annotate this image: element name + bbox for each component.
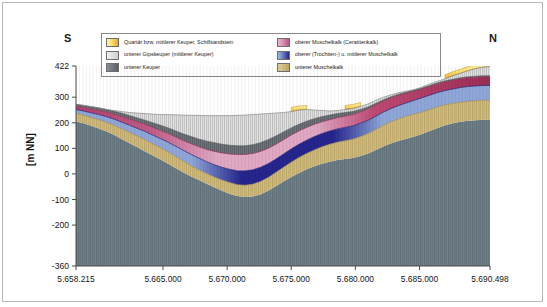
y-tick-label: 100	[55, 143, 70, 153]
x-tick-label: 5.680.000	[337, 274, 375, 284]
x-tick-label: 5.685.000	[401, 274, 439, 284]
y-tick-label: 422	[55, 61, 70, 71]
x-tick-label: 5.665.000	[144, 274, 182, 284]
x-tick-label: 5.658.215	[57, 274, 95, 284]
cross-section-svg: 4223002001000-100-200-3605.658.2155.665.…	[0, 0, 547, 307]
chart-plot-area: 4223002001000-100-200-3605.658.2155.665.…	[0, 0, 547, 307]
x-tick-label: 5.675.000	[273, 274, 311, 284]
x-tick-label: 5.690.498	[471, 274, 509, 284]
x-tick-label: 5.670.000	[208, 274, 246, 284]
y-tick-label: 300	[55, 92, 70, 102]
y-tick-label: -100	[52, 195, 69, 205]
y-tick-label: -200	[52, 220, 69, 230]
y-tick-label: 0	[64, 169, 69, 179]
figure-root: S N Quartär bzw. mittlerer Keuper, Schil…	[0, 0, 547, 307]
y-tick-label: 200	[55, 118, 70, 128]
y-tick-label: -360	[52, 261, 69, 271]
